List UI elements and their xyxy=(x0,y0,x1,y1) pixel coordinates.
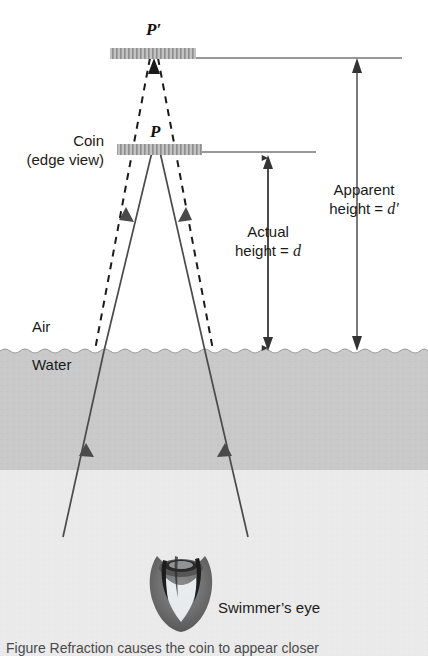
water-label: Water xyxy=(32,356,71,373)
air-label: Air xyxy=(32,318,50,335)
apparent-height-label-line1: Apparent xyxy=(306,180,422,199)
apparent-height-label-line2: height = d′ xyxy=(306,199,422,218)
object-point-label: P xyxy=(150,122,160,142)
image-point-label: P′ xyxy=(146,20,161,40)
actual-height-variable: d xyxy=(293,242,301,259)
actual-height-label-line2: height = d xyxy=(218,241,318,260)
figure-canvas xyxy=(0,0,428,656)
object-coin-bar xyxy=(117,144,202,155)
apparent-height-variable: d′ xyxy=(387,200,399,217)
figure-caption: Figure Refraction causes the coin to app… xyxy=(0,640,428,656)
coin-label-line2: (edge view) xyxy=(0,151,104,169)
water-region xyxy=(0,349,428,656)
apparent-height-prefix: height = xyxy=(329,200,387,217)
refraction-figure: P′ P Coin (edge view) Air Water Actual h… xyxy=(0,0,428,656)
actual-height-label-line1: Actual xyxy=(218,222,318,241)
image-coin-bar xyxy=(110,48,196,59)
actual-height-prefix: height = xyxy=(235,242,293,259)
swimmer-eye-label: Swimmer’s eye xyxy=(218,599,320,617)
reference-lines xyxy=(196,58,402,152)
coin-label-line1: Coin xyxy=(0,132,104,150)
